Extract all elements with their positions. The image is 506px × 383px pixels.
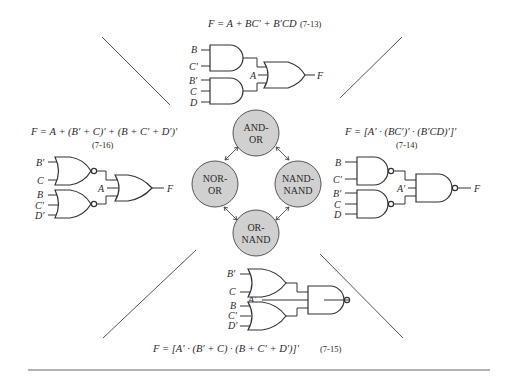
node-or-nand: OR- NAND	[233, 210, 279, 256]
input-label: B′	[189, 75, 198, 86]
double-arrow-icon	[225, 147, 238, 160]
output-label: F	[473, 183, 481, 194]
svg-text:NAND: NAND	[284, 185, 313, 196]
nand-gate-icon	[357, 157, 388, 185]
input-label: C	[190, 86, 197, 97]
input-label: D	[189, 97, 198, 108]
inverter-bubble-icon	[91, 201, 96, 206]
inverter-bubble-icon	[91, 168, 96, 173]
svg-text:NAND: NAND	[242, 234, 271, 245]
output-label: F	[316, 70, 324, 81]
svg-text:NAND-: NAND-	[282, 173, 314, 184]
or-gate-icon	[248, 302, 286, 330]
nor-gate-icon	[55, 157, 91, 185]
input-label: D	[333, 209, 342, 220]
svg-text:NOR-: NOR-	[203, 173, 227, 184]
equation-number-7-14: (7-14)	[396, 140, 417, 150]
input-label: B	[335, 157, 341, 168]
or-gate-icon	[115, 175, 152, 201]
nor-gate-icon	[55, 190, 91, 218]
input-label: C′	[333, 174, 343, 185]
equation-7-16: F = A + (B′ + C)′ + (B + C′ + D′)′	[30, 126, 178, 138]
conversion-cycle: AND- OR NOR- OR NAND- NAND OR- NAND	[192, 110, 321, 256]
output-label: F	[166, 183, 174, 194]
and-gate-icon	[210, 45, 243, 71]
equation-7-13: F = A + BC′ + B′CD	[207, 18, 297, 29]
diagonal-top-left	[102, 37, 170, 105]
input-label: B′	[333, 188, 342, 199]
input-label: B	[191, 44, 197, 55]
input-label-a: A	[249, 70, 257, 81]
input-label: B′	[227, 268, 236, 279]
equation-number-7-13: (7-13)	[300, 19, 321, 29]
input-label: C	[37, 175, 44, 186]
svg-text:OR: OR	[249, 134, 263, 145]
and-gate-icon	[210, 78, 243, 104]
svg-text:OR-: OR-	[247, 222, 264, 233]
or-gate-icon	[248, 269, 286, 297]
node-and-or: AND- OR	[233, 110, 279, 156]
double-arrow-icon	[224, 207, 237, 220]
equation-7-15: F = [A′ · (B′ + C) · (B + C′ + D′)]′	[152, 343, 300, 355]
or-nand-circuit: B′ C B C′ D′ A′ F F = [A′ · (B′ + C) · (…	[152, 268, 350, 355]
inverter-bubble-icon	[452, 185, 457, 190]
input-label: D′	[34, 210, 45, 221]
nand-gate-icon	[416, 174, 452, 202]
nand-nand-circuit: F = [A′ · (BC′)′ · (B′CD)′]′ (7-14) B C′…	[333, 126, 481, 220]
logic-forms-diagram: F = A + BC′ + B′CD (7-13) B C′ B′ C D A …	[0, 0, 506, 383]
equation-number-7-16: (7-16)	[92, 140, 113, 150]
input-label: C	[229, 286, 236, 297]
input-label-a: A′	[396, 183, 406, 194]
equation-number-7-15: (7-15)	[320, 344, 341, 354]
diagonal-bottom-left	[103, 250, 196, 338]
svg-text:OR: OR	[208, 185, 222, 196]
nor-or-circuit: F = A + (B′ + C)′ + (B + C′ + D′)′ (7-16…	[30, 126, 178, 221]
input-label: D′	[227, 320, 238, 331]
input-label: B′	[36, 157, 45, 168]
input-label-a: A	[97, 183, 105, 194]
or-gate-icon	[264, 62, 305, 88]
svg-text:AND-: AND-	[244, 122, 269, 133]
double-arrow-icon	[276, 207, 289, 220]
node-nand-nand: NAND- NAND	[275, 161, 321, 207]
diagonal-top-right	[340, 37, 402, 98]
input-label: C′	[189, 61, 199, 72]
equation-7-14: F = [A′ · (BC′)′ · (B′CD)′]′	[344, 126, 457, 138]
input-label: B	[37, 189, 43, 200]
double-arrow-icon	[276, 147, 289, 160]
inverter-bubble-icon	[388, 168, 393, 173]
nand-gate-icon	[357, 190, 388, 218]
and-or-circuit: F = A + BC′ + B′CD (7-13) B C′ B′ C D A …	[189, 18, 324, 108]
inverter-bubble-icon	[388, 201, 393, 206]
node-nor-or: NOR- OR	[192, 161, 238, 207]
